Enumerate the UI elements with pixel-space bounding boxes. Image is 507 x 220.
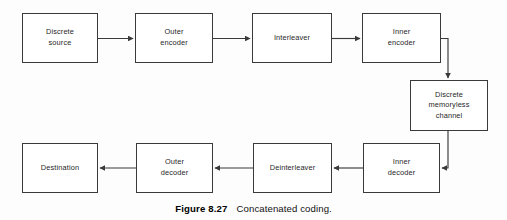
concatenated-coding-figure: Discrete source Outer encoder Interleave… [0, 0, 507, 220]
block-label: Outer encoder [158, 27, 190, 48]
block-label: Deinterleaver [268, 163, 318, 174]
block-inner-decoder: Inner decoder [363, 143, 440, 193]
block-outer-decoder: Outer decoder [136, 143, 213, 193]
block-deinterleaver: Deinterleaver [253, 143, 332, 193]
connector-channel-to-inner-decoder [442, 131, 448, 168]
connector-inner-encoder-to-channel [441, 39, 448, 79]
block-label: Destination [39, 163, 81, 174]
block-label: Discrete source [44, 27, 76, 48]
block-label: Inner decoder [386, 157, 418, 178]
figure-caption: Figure 8.27Concatenated coding. [0, 198, 507, 216]
figure-caption-number: Figure 8.27 [175, 203, 227, 214]
block-inner-encoder: Inner encoder [362, 13, 441, 63]
block-label: Discrete memoryless channel [426, 90, 471, 122]
block-label: Inner encoder [386, 27, 418, 48]
block-discrete-memoryless-channel: Discrete memoryless channel [410, 80, 488, 131]
block-discrete-source: Discrete source [22, 13, 98, 63]
block-label: Outer decoder [159, 157, 191, 178]
block-label: Interleaver [272, 33, 312, 44]
block-interleaver: Interleaver [252, 13, 332, 63]
block-destination: Destination [22, 143, 98, 193]
figure-caption-text: Concatenated coding. [236, 203, 331, 214]
block-outer-encoder: Outer encoder [135, 13, 213, 63]
